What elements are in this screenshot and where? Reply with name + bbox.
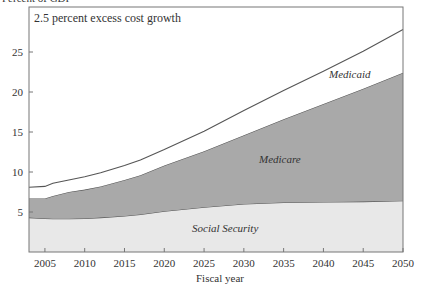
y-tick-label: 15 [12,126,24,138]
x-axis-label: Fiscal year [196,272,244,284]
x-tick-label: 2015 [113,257,136,269]
x-tick-label: 2030 [233,257,256,269]
x-tick-label: 2005 [34,257,57,269]
x-tick-label: 2040 [312,257,335,269]
chart-canvas: 5101520252005201020152020202520302035204… [0,0,423,296]
y-tick-label: 20 [12,86,24,98]
y-tick-label: 10 [12,166,24,178]
x-tick-label: 2035 [273,257,296,269]
chart-title: 2.5 percent excess cost growth [34,11,181,26]
social-security-label: Social Security [192,222,258,234]
x-tick-label: 2025 [193,257,216,269]
y-tick-label: 25 [12,46,24,58]
x-tick-label: 2010 [74,257,97,269]
y-axis-label: Percent of GDP [2,0,72,4]
x-tick-label: 2045 [352,257,375,269]
medicare-label: Medicare [259,153,301,165]
x-tick-label: 2020 [153,257,176,269]
x-tick-label: 2050 [392,257,415,269]
y-tick-label: 5 [18,206,24,218]
medicaid-label: Medicaid [329,68,371,80]
